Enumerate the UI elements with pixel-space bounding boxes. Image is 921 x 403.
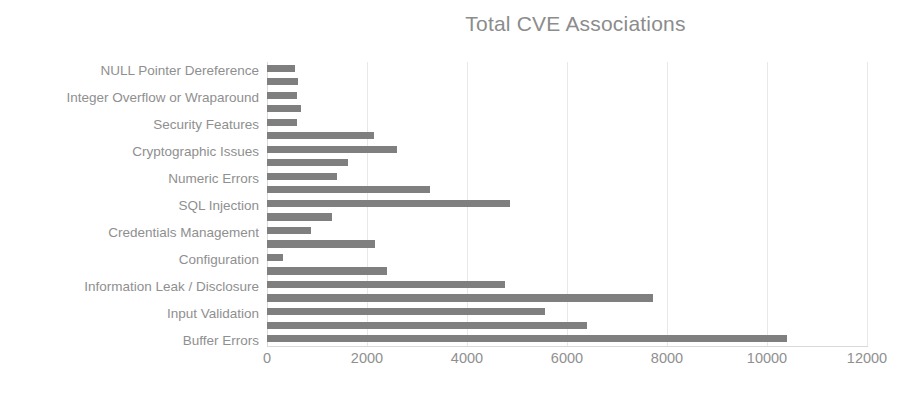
chart-title-text: Total CVE Associations bbox=[465, 12, 685, 36]
bar bbox=[267, 159, 348, 166]
x-tick-label-2000: 2000 bbox=[351, 350, 383, 366]
bar bbox=[267, 322, 587, 329]
bar bbox=[267, 132, 374, 139]
chart-container: Total CVE Associations NULL Pointer Dere… bbox=[0, 0, 921, 403]
bar bbox=[267, 227, 311, 234]
category-label: Credentials Management bbox=[108, 226, 259, 239]
bar bbox=[267, 92, 297, 99]
x-tick-label-12000: 12000 bbox=[847, 350, 887, 366]
category-label: Integer Overflow or Wraparound bbox=[66, 90, 259, 103]
bar bbox=[267, 119, 297, 126]
bar bbox=[267, 213, 332, 220]
category-label: Security Features bbox=[153, 117, 259, 130]
category-label: Numeric Errors bbox=[168, 171, 259, 184]
chart-title: Total CVE Associations bbox=[0, 12, 921, 36]
category-label: Information Leak / Disclosure bbox=[84, 280, 259, 293]
category-label: SQL Injection bbox=[178, 199, 259, 212]
bar bbox=[267, 308, 545, 315]
bar bbox=[267, 146, 397, 153]
category-label: NULL Pointer Dereference bbox=[100, 63, 259, 76]
bar bbox=[267, 267, 387, 274]
bar bbox=[267, 65, 295, 72]
bar bbox=[267, 105, 301, 112]
x-axis-tick-labels: 020004000600080001000012000 bbox=[267, 350, 867, 376]
category-label: Cryptographic Issues bbox=[132, 144, 259, 157]
bar bbox=[267, 186, 430, 193]
bar bbox=[267, 200, 510, 207]
bar bbox=[267, 281, 505, 288]
bar bbox=[267, 240, 375, 247]
x-tick-label-4000: 4000 bbox=[451, 350, 483, 366]
x-tick-label-6000: 6000 bbox=[551, 350, 583, 366]
plot-area bbox=[267, 62, 867, 346]
bar bbox=[267, 78, 298, 85]
x-tick-label-10000: 10000 bbox=[747, 350, 787, 366]
category-label: Buffer Errors bbox=[183, 334, 259, 347]
gridline-12000 bbox=[867, 62, 868, 346]
x-axis-line bbox=[267, 346, 868, 347]
bar bbox=[267, 254, 283, 261]
x-tick-label-8000: 8000 bbox=[651, 350, 683, 366]
bar-series bbox=[267, 62, 867, 346]
category-label: Configuration bbox=[179, 253, 259, 266]
bar bbox=[267, 335, 787, 342]
bar bbox=[267, 173, 337, 180]
x-tick-label-0: 0 bbox=[263, 350, 271, 366]
y-axis-category-labels: NULL Pointer DereferenceInteger Overflow… bbox=[0, 62, 259, 346]
bar bbox=[267, 294, 653, 301]
category-label: Input Validation bbox=[167, 307, 259, 320]
